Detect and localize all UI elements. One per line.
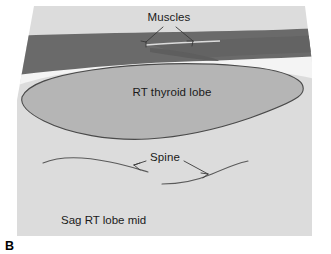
scan-caption: Sag RT lobe mid xyxy=(61,214,146,226)
panel-letter: B xyxy=(5,239,14,253)
label-muscles: Muscles xyxy=(148,11,191,23)
figure-panel: Muscles RT thyroid lobe Spine Sag RT lob… xyxy=(0,0,331,254)
ultrasound-schematic: Muscles RT thyroid lobe Spine Sag RT lob… xyxy=(0,0,331,254)
label-spine: Spine xyxy=(150,151,180,163)
label-rt-thyroid-lobe: RT thyroid lobe xyxy=(132,86,211,98)
